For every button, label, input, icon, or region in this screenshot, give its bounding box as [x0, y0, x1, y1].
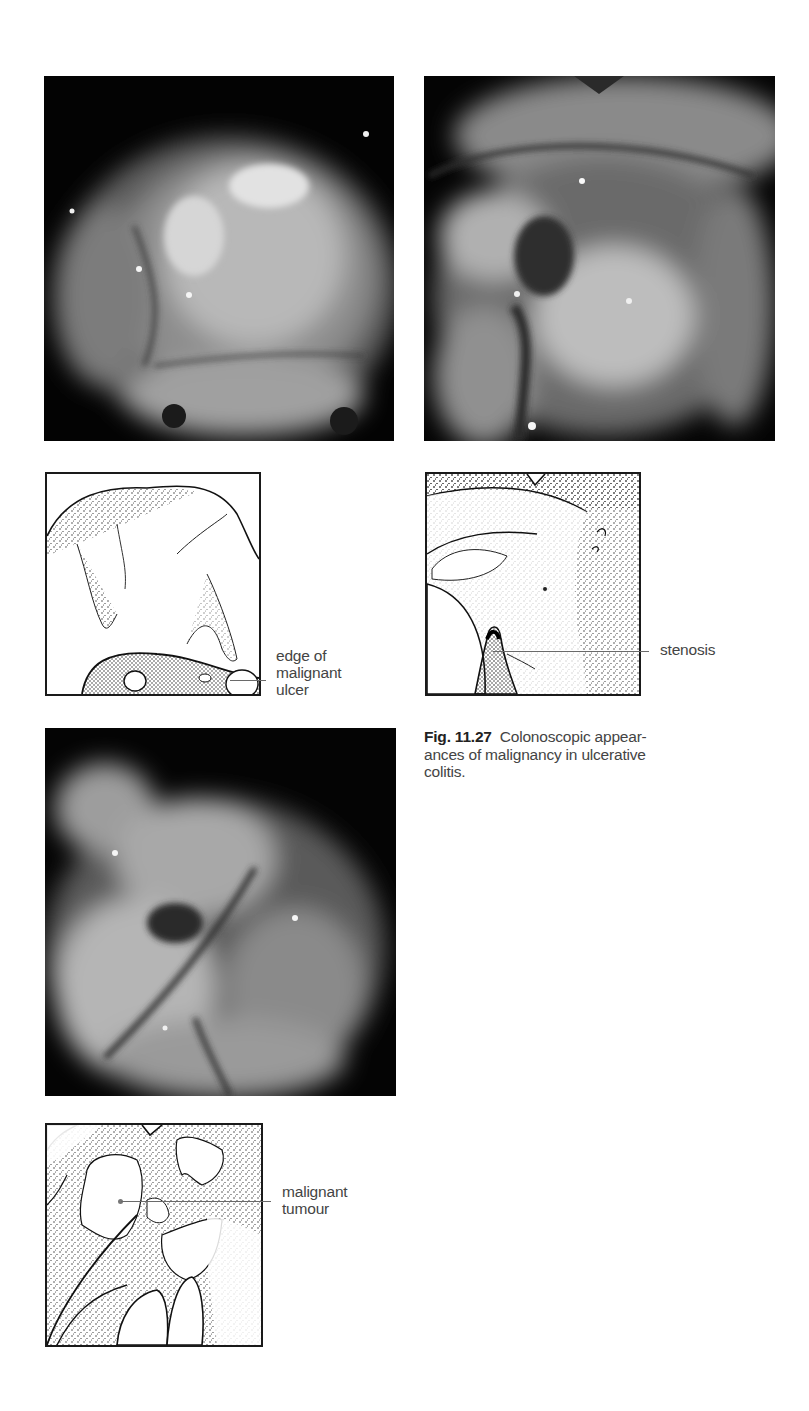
- label-line: ulcer: [276, 681, 341, 698]
- endoscopic-photo-1: [44, 76, 394, 441]
- diagram-2-drawing: [427, 474, 639, 694]
- label-malignant-tumour: malignant tumour: [282, 1183, 347, 1217]
- photo-1-image: [44, 76, 394, 441]
- photo-3-image: [45, 728, 396, 1096]
- label-line: edge of: [276, 647, 341, 664]
- endoscopic-photo-2: [424, 76, 775, 441]
- caption-line-1: Colonoscopic appear-: [500, 728, 647, 745]
- caption-line-3: colitis.: [424, 763, 465, 780]
- line-diagram-2: [425, 472, 641, 696]
- leader-line-edge-of-malignant-ulcer: [230, 680, 266, 681]
- label-line: malignant: [276, 664, 341, 681]
- label-edge-of-malignant-ulcer: edge of malignant ulcer: [276, 647, 341, 698]
- label-stenosis: stenosis: [660, 641, 715, 658]
- line-diagram-3: [45, 1123, 263, 1347]
- line-diagram-1: [45, 472, 261, 696]
- leader-line-stenosis: [493, 651, 643, 652]
- caption-line-2: ances of malignancy in ulcerative: [424, 746, 646, 763]
- label-line: tumour: [282, 1200, 347, 1217]
- photo-2-image: [424, 76, 775, 441]
- diagram-1-drawing: [47, 474, 259, 694]
- endoscopic-photo-3: [45, 728, 396, 1096]
- label-line: stenosis: [660, 641, 715, 658]
- leader-line-malignant-tumour: [121, 1201, 271, 1202]
- figure-caption: Fig. 11.27Colonoscopic appear- ances of …: [424, 728, 724, 781]
- figure-number: Fig. 11.27: [424, 728, 492, 745]
- leader-line-stenosis-ext: [641, 651, 649, 652]
- diagram-3-drawing: [47, 1125, 261, 1345]
- label-line: malignant: [282, 1183, 347, 1200]
